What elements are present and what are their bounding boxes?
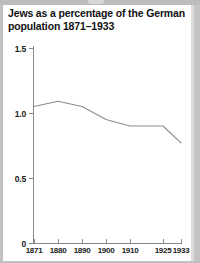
data-line-jews-percentage — [34, 101, 181, 143]
plot-area: 1.5 1.0 0.5 0 1871 1880 1890 1900 1910 1… — [0, 0, 200, 263]
chart-page: Jews as a percentage of the German popul… — [0, 0, 200, 263]
data-series-svg — [0, 0, 200, 263]
